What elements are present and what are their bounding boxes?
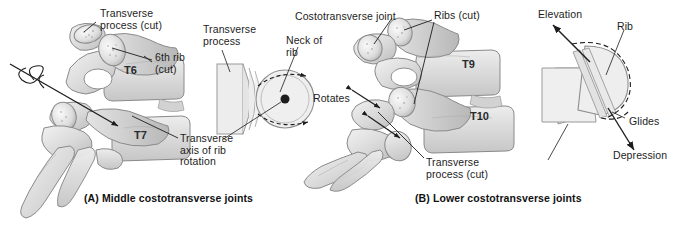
- label-depression-motion: Depression: [613, 150, 667, 162]
- label-transverse-axis-of-rib-rotation: Transverse axis of rib rotation: [180, 133, 233, 168]
- label-neck-of-rib: Neck of rib: [286, 35, 322, 58]
- vertebra-label-t9: T9: [462, 58, 475, 70]
- panel-a-caption: (A) Middle costotransverse joints: [84, 192, 253, 204]
- vertebra-label-t7: T7: [134, 129, 147, 141]
- label-transverse-process-cut-a: Transverse process (cut): [100, 8, 162, 31]
- vertebra-label-t10: T10: [470, 110, 489, 122]
- label-glides-motion: Glides: [629, 116, 659, 128]
- panel-b-caption: (B) Lower costotransverse joints: [415, 192, 582, 204]
- label-elevation-motion: Elevation: [538, 9, 582, 21]
- panel-a-schematic: [217, 47, 314, 140]
- label-rotates-motion: Rotates: [313, 93, 350, 105]
- label-rib: Rib: [617, 21, 633, 33]
- vertebra-label-t6: T6: [124, 64, 137, 76]
- label-transverse-process-cut-b: Transverse process (cut): [426, 157, 488, 180]
- label-transverse-process-schematic-a: Transverse process: [203, 24, 256, 47]
- label-6th-rib-cut: 6th rib (cut): [155, 52, 185, 75]
- label-ribs-cut: Ribs (cut): [434, 10, 480, 22]
- costotransverse-joints-figure: Transverse process (cut) 6th rib (cut) T…: [0, 0, 681, 229]
- label-costotransverse-joint: Costotransverse joint: [295, 11, 396, 23]
- panel-b-schematic: [542, 25, 634, 160]
